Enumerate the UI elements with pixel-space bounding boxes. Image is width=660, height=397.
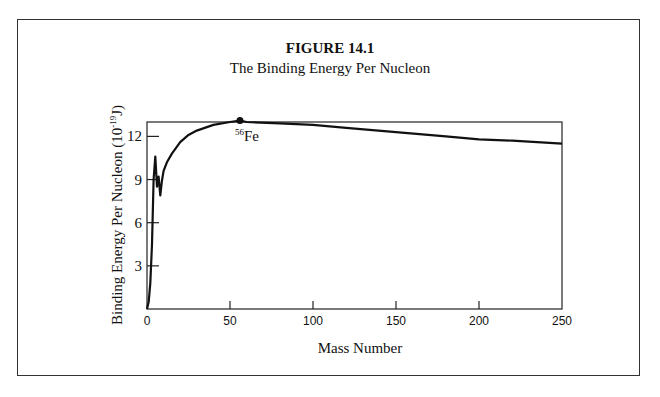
y-tick-label: 9 — [135, 172, 143, 188]
fe56-marker — [236, 117, 243, 124]
plot-box — [147, 122, 562, 309]
plot-axes: 05010015020025036912 — [127, 122, 572, 328]
chart-plot: 05010015020025036912 56Fe — [0, 0, 660, 397]
x-tick-label: 250 — [552, 314, 572, 328]
x-tick-label: 0 — [144, 314, 151, 328]
x-tick-label: 150 — [386, 314, 406, 328]
y-tick-label: 3 — [135, 258, 143, 274]
x-tick-label: 200 — [469, 314, 489, 328]
y-tick-label: 12 — [127, 128, 142, 144]
binding-energy-curve — [147, 121, 562, 309]
x-tick-label: 100 — [303, 314, 323, 328]
x-tick-label: 50 — [223, 314, 237, 328]
y-tick-label: 6 — [135, 215, 143, 231]
fe56-annotation: 56Fe — [235, 127, 259, 144]
